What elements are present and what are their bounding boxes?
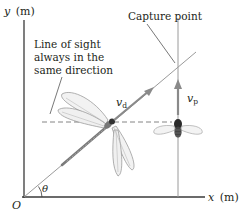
pursuit-diagram: y (m) x (m) O θ Capture point Line of si… [0, 0, 246, 216]
line-of-sight-annotation: Line of sight always in the same directi… [34, 38, 113, 76]
prey-fly-illustration [154, 119, 203, 138]
y-axis-label: y (m) [3, 5, 35, 18]
capture-point-label: Capture point [128, 10, 203, 22]
dragonfly-velocity-label: vd [116, 96, 127, 110]
prey-velocity-label: vp [187, 92, 198, 106]
capture-point-leader [147, 24, 175, 63]
angle-theta-label: θ [42, 183, 48, 194]
prey-velocity-arrowhead [174, 79, 182, 89]
origin-label: O [12, 199, 21, 212]
x-axis-label: x (m) [208, 191, 239, 204]
